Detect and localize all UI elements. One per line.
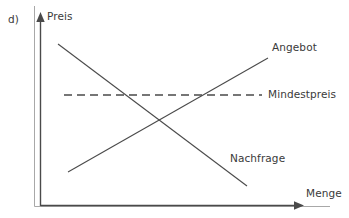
supply-curve-label: Angebot <box>272 42 317 53</box>
minimum-price-label: Mindestpreis <box>268 89 336 100</box>
price-floor-diagram: d) Preis Menge Angebot Mindestpreis Nach… <box>0 0 349 218</box>
x-axis-arrowhead <box>294 201 304 209</box>
y-axis-label: Preis <box>47 11 73 22</box>
demand-curve-label: Nachfrage <box>230 153 285 164</box>
y-axis-arrowhead <box>36 12 44 22</box>
subquestion-label: d) <box>8 14 19 25</box>
x-axis-label: Menge <box>306 188 342 199</box>
demand-curve <box>58 44 247 186</box>
diagram-canvas <box>0 0 349 218</box>
